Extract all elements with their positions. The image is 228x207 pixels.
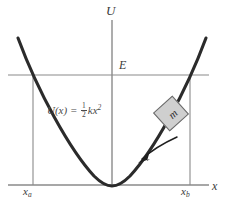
energy-level-label: E bbox=[119, 59, 126, 71]
potential-energy-diagram: U x E xa xb U(x) = 12kx2 m bbox=[0, 0, 228, 207]
u-axis-label: U bbox=[106, 4, 115, 17]
motion-arrow-head bbox=[138, 154, 150, 163]
turning-point-label-right: xb bbox=[181, 186, 190, 199]
x-axis-label: x bbox=[212, 180, 217, 192]
curve-equation: U(x) = 12kx2 bbox=[47, 102, 101, 119]
curve-equation-prefix: U(x) = bbox=[47, 104, 80, 116]
diagram-canvas bbox=[0, 0, 228, 207]
turning-point-label-right-subscript: b bbox=[186, 190, 190, 199]
fraction-denominator: 2 bbox=[81, 111, 87, 119]
turning-point-label-left-subscript: a bbox=[28, 190, 32, 199]
curve-equation-suffix: kx bbox=[88, 104, 98, 116]
turning-point-label-left: xa bbox=[23, 186, 32, 199]
curve-equation-exponent: 2 bbox=[98, 103, 102, 112]
one-half-fraction: 12 bbox=[81, 102, 87, 119]
